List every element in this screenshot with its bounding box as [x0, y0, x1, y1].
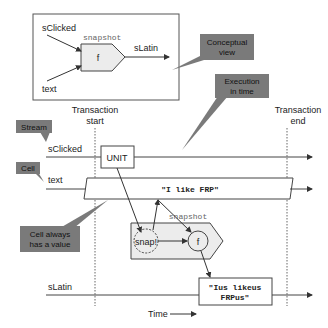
svg-text:Cell: Cell [21, 164, 35, 173]
svg-text:"I like FRP": "I like FRP" [161, 185, 219, 194]
tx-start-label: Transaction [72, 105, 119, 115]
output-slatin-label: sLatin [134, 43, 158, 53]
output-slatin-time-label: sLatin [48, 282, 72, 292]
svg-text:FRPus": FRPus" [221, 293, 250, 302]
cell-text-label: text [48, 175, 63, 185]
svg-text:Stream: Stream [21, 123, 47, 132]
svg-text:Cell always: Cell always [30, 230, 70, 239]
svg-text:has a value: has a value [30, 240, 71, 249]
input-text-label: text [42, 84, 57, 94]
stream-sclicked-label: sClicked [48, 144, 82, 154]
snapshot-label: snapshot [83, 33, 121, 42]
time-axis-label: Time [148, 309, 168, 319]
svg-text:UNIT: UNIT [107, 153, 128, 163]
svg-text:Conceptual: Conceptual [207, 38, 248, 47]
tx-end-label: Transaction [275, 105, 322, 115]
svg-text:end: end [290, 116, 305, 126]
svg-text:snap!: snap! [135, 237, 157, 247]
frp-diagram: sClicked text snapshot f sLatin Conceptu… [0, 0, 328, 328]
svg-text:"Ius likeus: "Ius likeus [209, 283, 262, 292]
input-sclicked-label: sClicked [42, 23, 76, 33]
svg-text:start: start [86, 116, 104, 126]
svg-text:view: view [219, 48, 235, 57]
svg-text:in time: in time [230, 87, 254, 96]
svg-text:Execution: Execution [224, 77, 259, 86]
